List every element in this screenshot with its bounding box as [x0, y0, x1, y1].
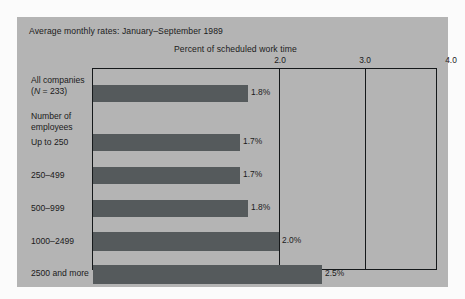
category-label-2500-and-more: 2500 and more: [31, 268, 89, 279]
bar-value-2500-and-more: 2.5%: [325, 268, 344, 278]
bar-500-999: [93, 200, 248, 217]
bar-value-all-companies: 1.8%: [251, 87, 270, 97]
gridline-3: [365, 69, 366, 269]
plot-area: [92, 68, 437, 270]
category-label-500-999: 500–999: [31, 203, 64, 214]
category-label-up-to-250: Up to 250: [31, 137, 68, 148]
x-tick-label-2: 2.0: [274, 55, 286, 65]
bar-value-500-999: 1.8%: [251, 202, 270, 212]
bar-value-1000-2499: 2.0%: [282, 235, 301, 245]
group-header-line2: employees: [31, 122, 73, 132]
x-tick-label-3: 3.0: [359, 55, 371, 65]
chart-title: Average monthly rates: January–September…: [29, 26, 223, 36]
bar-value-up-to-250: 1.7%: [243, 136, 262, 146]
category-label-250-499: 250–499: [31, 170, 64, 181]
all-companies-line2: (N = 233): [31, 86, 67, 96]
group-header-number-of-employees: Number of employees: [31, 111, 73, 132]
all-companies-line1: All companies: [31, 75, 85, 85]
x-tick-label-4: 4.0: [445, 55, 457, 65]
chart-figure: Average monthly rates: January–September…: [17, 17, 448, 287]
gridline-2: [279, 69, 280, 269]
group-header-line1: Number of: [31, 111, 71, 121]
category-label-all-companies: All companies (N = 233): [31, 75, 85, 96]
bar-value-250-499: 1.7%: [243, 169, 262, 179]
x-axis-title: Percent of scheduled work time: [174, 44, 297, 54]
bar-250-499: [93, 167, 240, 184]
category-label-1000-2499: 1000–2499: [31, 236, 74, 247]
bar-2500-and-more: [93, 265, 322, 284]
bar-1000-2499: [93, 232, 279, 251]
bar-all-companies: [93, 85, 248, 102]
bar-up-to-250: [93, 134, 240, 151]
